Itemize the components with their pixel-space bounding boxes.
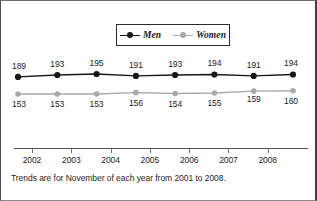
x-axis-tick: [189, 148, 190, 153]
legend-swatch-men-icon: [120, 31, 140, 40]
x-axis-tick: [150, 148, 151, 153]
data-point-label: 156: [129, 98, 143, 108]
x-axis-tick-label: 2002: [23, 155, 42, 165]
series-markers-men: [15, 71, 296, 80]
data-point-label: 195: [90, 58, 104, 68]
data-point-label: 153: [12, 99, 26, 109]
x-axis-tick: [32, 148, 33, 153]
data-point-marker: [172, 91, 178, 97]
data-point-label: 160: [284, 96, 298, 106]
x-axis-tick-label: 2008: [258, 155, 277, 165]
data-point-label: 155: [207, 98, 221, 108]
data-point-marker: [211, 71, 217, 77]
data-point-label: 189: [12, 61, 26, 71]
data-point-marker: [133, 90, 139, 96]
data-point-marker: [94, 91, 100, 97]
data-point-label: 193: [50, 59, 64, 69]
x-axis-line: [14, 148, 308, 149]
x-axis-tick: [228, 148, 229, 153]
data-point-marker: [290, 88, 296, 94]
data-point-label: 153: [50, 99, 64, 109]
data-point-marker: [54, 72, 60, 78]
data-point-label: 154: [168, 99, 182, 109]
data-point-marker: [15, 74, 21, 80]
x-axis-tick-label: 2006: [180, 155, 199, 165]
x-axis-tick: [71, 148, 72, 153]
legend-swatch-women-icon: [173, 31, 193, 40]
data-point-marker: [94, 71, 100, 77]
data-point-marker: [290, 71, 296, 77]
data-point-label: 194: [207, 58, 221, 68]
data-point-marker: [15, 91, 21, 97]
clipped-source-note: [44, 194, 276, 200]
x-axis-tick: [268, 148, 269, 153]
data-point-marker: [55, 91, 61, 97]
data-point-marker: [251, 88, 257, 94]
legend-label-women: Women: [196, 30, 226, 40]
x-axis-tick-label: 2005: [141, 155, 160, 165]
legend-item-men: Men: [120, 30, 161, 40]
data-point-label: 194: [284, 58, 298, 68]
x-axis-tick-label: 2003: [62, 155, 81, 165]
chart-figure: Men Women 189193195191193194191194 15315…: [0, 0, 317, 201]
data-point-label: 159: [247, 94, 261, 104]
x-axis-tick-label: 2004: [101, 155, 120, 165]
data-point-marker: [212, 90, 218, 96]
chart-caption: Trends are for November of each year fro…: [11, 173, 226, 183]
legend-item-women: Women: [173, 30, 226, 40]
series-line-men: [18, 74, 293, 77]
x-axis-tick: [111, 148, 112, 153]
data-point-label: 153: [90, 99, 104, 109]
data-point-label: 191: [247, 60, 261, 70]
x-axis-tick-label: 2007: [219, 155, 238, 165]
data-point-marker: [251, 73, 257, 79]
data-point-marker: [172, 72, 178, 78]
data-point-marker: [133, 73, 139, 79]
data-point-label: 193: [168, 59, 182, 69]
chart-legend: Men Women: [116, 24, 230, 46]
legend-label-men: Men: [143, 30, 161, 40]
data-point-label: 191: [129, 60, 143, 70]
